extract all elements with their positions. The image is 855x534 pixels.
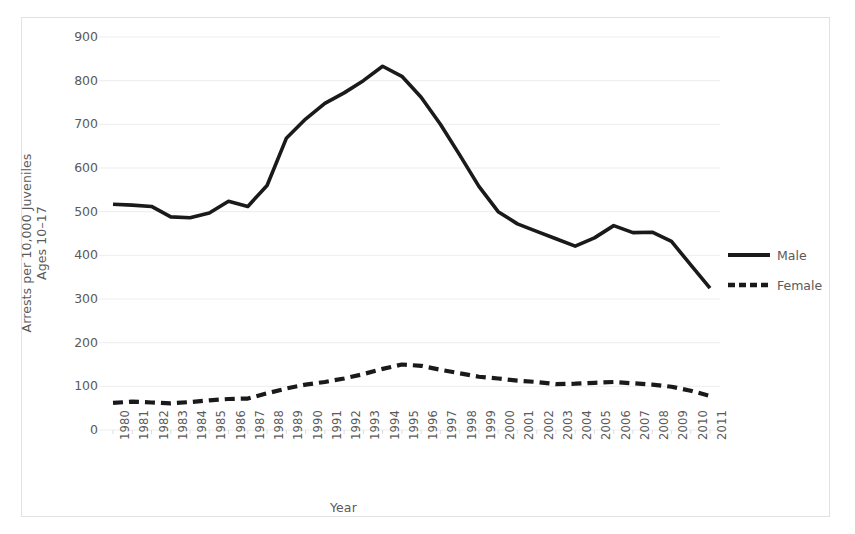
x-tick-label: 1997 xyxy=(445,410,459,440)
x-tick-label: 1982 xyxy=(157,410,171,440)
x-tick-label: 1981 xyxy=(137,410,151,440)
x-tick-label: 2008 xyxy=(657,410,671,440)
legend-item-male[interactable]: Male xyxy=(728,240,838,270)
x-tick-label: 1999 xyxy=(484,410,498,440)
legend-swatch-dashed xyxy=(728,280,770,290)
x-tick-label: 1988 xyxy=(272,410,286,440)
y-axis-title-line2: Ages 10–17 xyxy=(34,143,49,343)
x-tick-label: 2006 xyxy=(619,410,633,440)
x-tick-label: 1993 xyxy=(368,410,382,440)
legend-item-female[interactable]: Female xyxy=(728,270,838,300)
x-tick-label: 2001 xyxy=(522,410,536,440)
x-tick-label: 1996 xyxy=(426,410,440,440)
x-tick-label: 1980 xyxy=(118,410,132,440)
x-tick-label: 1991 xyxy=(330,410,344,440)
chart-legend: MaleFemale xyxy=(728,240,838,300)
legend-label: Male xyxy=(777,248,807,263)
x-tick-label: 1984 xyxy=(195,410,209,440)
x-tick-label: 1986 xyxy=(234,410,248,440)
x-axis-title: Year xyxy=(330,500,357,515)
x-tick-label: 2003 xyxy=(561,410,575,440)
chart-figure: 0100200300400500600700800900 19801981198… xyxy=(0,0,855,534)
x-tick-label: 1994 xyxy=(388,410,402,440)
x-tick-label: 2004 xyxy=(580,410,594,440)
x-tick-label: 1992 xyxy=(349,410,363,440)
x-tick-label: 2009 xyxy=(676,410,690,440)
x-tick-label: 2000 xyxy=(503,410,517,440)
legend-label: Female xyxy=(777,278,822,293)
x-tick-label: 1995 xyxy=(407,410,421,440)
legend-swatch-solid xyxy=(728,250,770,260)
x-tick-label: 2007 xyxy=(638,410,652,440)
x-tick-label: 2005 xyxy=(599,410,613,440)
x-tick-label: 2011 xyxy=(715,410,729,440)
x-tick-label: 2010 xyxy=(696,410,710,440)
x-tick-label: 1990 xyxy=(311,410,325,440)
y-axis-title-line1: Arrests per 10,000 Juveniles xyxy=(19,143,34,343)
x-tick-label: 1983 xyxy=(176,410,190,440)
x-axis-tick-labels: 1980198119821983198419851986198719881989… xyxy=(0,0,855,534)
x-tick-label: 1998 xyxy=(465,410,479,440)
x-tick-label: 1987 xyxy=(253,410,267,440)
y-axis-title: Arrests per 10,000 Juveniles Ages 10–17 xyxy=(19,143,49,343)
x-tick-label: 1985 xyxy=(214,410,228,440)
x-tick-label: 2002 xyxy=(542,410,556,440)
x-tick-label: 1989 xyxy=(291,410,305,440)
